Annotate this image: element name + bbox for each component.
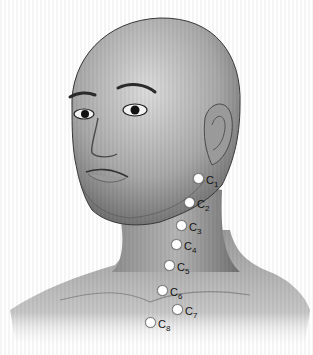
marker-label-c5: C5 bbox=[177, 262, 189, 273]
marker-dot-c1 bbox=[193, 173, 204, 184]
marker-label-c1: C1 bbox=[206, 175, 218, 186]
marker-dot-c6 bbox=[157, 285, 168, 296]
label-letter: C bbox=[197, 198, 205, 210]
anatomy-illustration: C1C2C3C4C5C6C7C8 bbox=[0, 0, 313, 355]
label-number: 1 bbox=[214, 180, 218, 189]
marker-dot-c4 bbox=[171, 239, 182, 250]
marker-dot-c3 bbox=[176, 220, 187, 231]
marker-label-c7: C7 bbox=[185, 306, 197, 317]
marker-label-c6: C6 bbox=[170, 287, 182, 298]
marker-dot-c5 bbox=[164, 260, 175, 271]
label-letter: C bbox=[184, 240, 192, 252]
marker-label-c4: C4 bbox=[184, 241, 196, 252]
label-letter: C bbox=[158, 318, 166, 330]
marker-label-c2: C2 bbox=[197, 199, 209, 210]
label-number: 3 bbox=[197, 227, 201, 236]
label-letter: C bbox=[206, 174, 214, 186]
label-letter: C bbox=[177, 261, 185, 273]
label-letter: C bbox=[189, 221, 197, 233]
marker-dot-c7 bbox=[172, 304, 183, 315]
label-number: 7 bbox=[193, 311, 197, 320]
label-letter: C bbox=[170, 286, 178, 298]
marker-dot-c2 bbox=[184, 197, 195, 208]
label-number: 2 bbox=[205, 204, 209, 213]
head-neck-drawing bbox=[0, 0, 313, 355]
label-number: 6 bbox=[178, 292, 182, 301]
label-number: 4 bbox=[192, 246, 196, 255]
label-number: 8 bbox=[166, 324, 170, 333]
label-number: 5 bbox=[185, 267, 189, 276]
marker-label-c3: C3 bbox=[189, 222, 201, 233]
label-letter: C bbox=[185, 305, 193, 317]
marker-dot-c8 bbox=[145, 317, 156, 328]
marker-label-c8: C8 bbox=[158, 319, 170, 330]
